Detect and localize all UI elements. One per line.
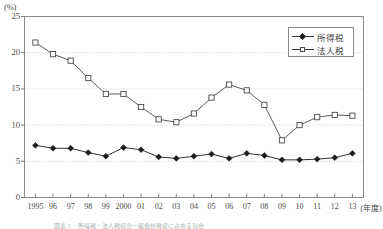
y-tick-label: 20	[2, 47, 20, 57]
x-tick-label: 96	[49, 202, 57, 211]
x-axis-unit-label: (年度)	[360, 202, 381, 213]
x-tick-label: 05	[208, 202, 216, 211]
legend-item-corporate-tax: 法人税	[292, 43, 350, 56]
x-tick-label: 97	[67, 202, 75, 211]
legend-label-income-tax: 所得税	[317, 31, 344, 43]
x-tick-label: 04	[190, 202, 198, 211]
y-tick-label: 25	[2, 11, 20, 21]
x-tick-label: 10	[296, 202, 304, 211]
x-tick-label: 09	[278, 202, 286, 211]
legend-label-corporate-tax: 法人税	[317, 44, 344, 56]
filled-diamond-marker-icon	[292, 31, 314, 42]
x-tick-label: 13	[348, 202, 356, 211]
x-tick-label: 1995	[27, 202, 43, 211]
y-tick-label: 0	[2, 192, 20, 202]
legend-item-income-tax: 所得税	[292, 30, 350, 43]
y-tick-label: 5	[2, 156, 20, 166]
x-tick-label: 08	[260, 202, 268, 211]
chart-figure: (%) 0510152025 1995969798992000010203040…	[0, 0, 383, 229]
x-tick-label: 03	[172, 202, 180, 211]
x-tick-label: 98	[84, 202, 92, 211]
x-tick-label: 11	[313, 202, 321, 211]
x-tick-label: 99	[102, 202, 110, 211]
x-tick-label: 2000	[115, 202, 131, 211]
x-tick-label: 01	[137, 202, 145, 211]
figure-caption: 図表 2 所得税・法人税収の一般会計税収に占める割合	[54, 221, 354, 229]
x-tick-label: 06	[225, 202, 233, 211]
x-tick-label: 02	[155, 202, 163, 211]
x-tick-label: 07	[243, 202, 251, 211]
chart-legend: 所得税 法人税	[288, 27, 354, 57]
x-tick-label: 12	[331, 202, 339, 211]
y-tick-label: 15	[2, 83, 20, 93]
open-square-marker-icon	[292, 44, 314, 55]
y-tick-label: 10	[2, 120, 20, 130]
